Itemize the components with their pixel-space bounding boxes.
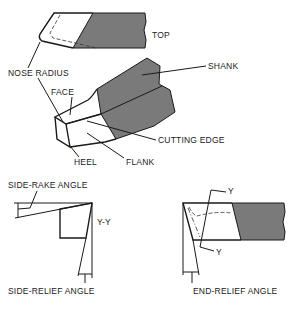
cutting-tool-diagram: TOP NOSE RADIUS FACE SHANK CUTTING EDGE … <box>0 0 299 310</box>
label-y-bottom: Y <box>216 247 222 257</box>
label-y-top: Y <box>228 186 234 196</box>
label-nose-radius: NOSE RADIUS <box>8 68 69 78</box>
label-side-rake-angle: SIDE-RAKE ANGLE <box>8 180 88 190</box>
top-view: TOP <box>39 13 170 48</box>
label-end-relief-angle: END-RELIEF ANGLE <box>193 286 278 296</box>
section-yy-view: SIDE-RAKE ANGLE Y-Y SIDE-RELIEF ANGLE <box>8 180 111 296</box>
label-face: FACE <box>51 87 74 97</box>
top-view-shank <box>73 13 146 48</box>
label-shank: SHANK <box>208 61 238 71</box>
side-view: Y Y END-RELIEF ANGLE <box>183 186 285 296</box>
top-view-label: TOP <box>152 30 170 40</box>
label-side-relief-angle: SIDE-RELIEF ANGLE <box>8 286 95 296</box>
label-section-yy: Y-Y <box>97 217 111 227</box>
label-cutting-edge: CUTTING EDGE <box>158 135 225 145</box>
label-heel: HEEL <box>74 157 97 167</box>
section-profile <box>60 203 92 238</box>
side-view-shank <box>232 203 285 240</box>
isometric-view: NOSE RADIUS FACE SHANK CUTTING EDGE HEEL… <box>8 42 238 167</box>
label-flank: FLANK <box>126 157 155 167</box>
